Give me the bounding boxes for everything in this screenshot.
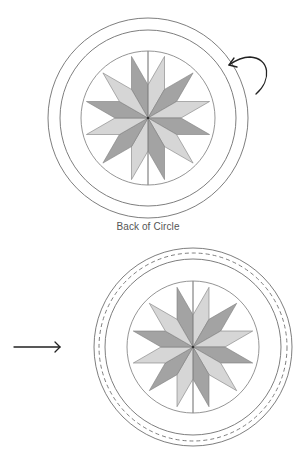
sewn-circle-figure bbox=[94, 248, 292, 446]
back-of-circle-figure bbox=[48, 18, 248, 218]
right-arrow-icon bbox=[14, 342, 60, 352]
center-point bbox=[147, 117, 150, 120]
figure-caption: Back of Circle bbox=[0, 221, 296, 232]
center-point bbox=[192, 346, 195, 349]
curved-fold-arrow-icon bbox=[229, 57, 267, 94]
